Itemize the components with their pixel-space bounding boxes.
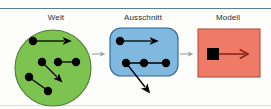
stage-ausschnitt[interactable] (110, 28, 178, 87)
modell-node-square[interactable] (207, 48, 219, 60)
stage-modell[interactable] (198, 29, 260, 77)
welt-node[interactable] (44, 87, 52, 95)
stage-welt[interactable] (15, 30, 91, 106)
diagram-page: Welt Ausschnitt Modell (0, 0, 271, 109)
welt-node[interactable] (72, 58, 80, 66)
ausschnitt-node[interactable] (140, 59, 148, 67)
welt-node[interactable] (29, 37, 37, 45)
ausschnitt-rounded-rect-shape[interactable] (110, 28, 178, 76)
ausschnitt-node[interactable] (162, 59, 170, 67)
welt-node[interactable] (25, 73, 33, 81)
ausschnitt-node[interactable] (116, 37, 124, 45)
diagram-canvas (0, 0, 271, 109)
ausschnitt-node[interactable] (122, 59, 130, 67)
welt-node[interactable] (38, 58, 46, 66)
welt-node[interactable] (54, 58, 62, 66)
